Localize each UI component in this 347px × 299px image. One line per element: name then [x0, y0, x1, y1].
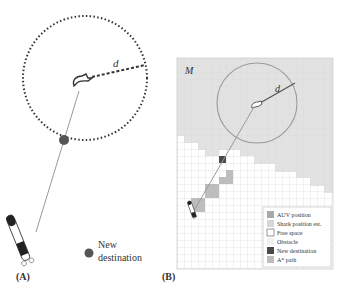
panel-a: d New destination (A)	[3, 16, 147, 283]
legend-item-a-star-path: A* path	[267, 256, 296, 263]
panel-a-label: (A)	[16, 271, 30, 283]
new-destination-label-line1: New	[98, 239, 118, 250]
new-destination-dot	[85, 249, 94, 258]
distance-label: d	[113, 57, 119, 69]
figure: d New destination (A) M	[0, 0, 347, 299]
svg-text:Free space: Free space	[277, 230, 303, 236]
path-line	[36, 91, 79, 232]
radius-d-line	[92, 65, 145, 77]
legend: AUV position Shark position est. Free sp…	[263, 207, 331, 267]
legend-item-auv-position: AUV position	[267, 211, 311, 218]
svg-text:AUV position: AUV position	[277, 212, 311, 218]
shark-icon	[73, 74, 92, 86]
map-label: M	[184, 65, 194, 76]
legend-item-free-space: Free space	[267, 229, 303, 236]
intercept-point	[59, 135, 69, 145]
svg-text:Obstacle: Obstacle	[277, 239, 298, 245]
new-destination-label-line2: destination	[98, 252, 142, 263]
svg-text:A* path: A* path	[277, 257, 296, 263]
svg-text:Shark position est.: Shark position est.	[277, 221, 322, 227]
svg-text:New destination: New destination	[277, 248, 316, 254]
auv-icon	[3, 213, 34, 266]
legend-item-obstacle: Obstacle	[267, 238, 298, 245]
panel-b: M d AUV position	[162, 58, 333, 283]
panel-b-label: (B)	[162, 271, 175, 283]
